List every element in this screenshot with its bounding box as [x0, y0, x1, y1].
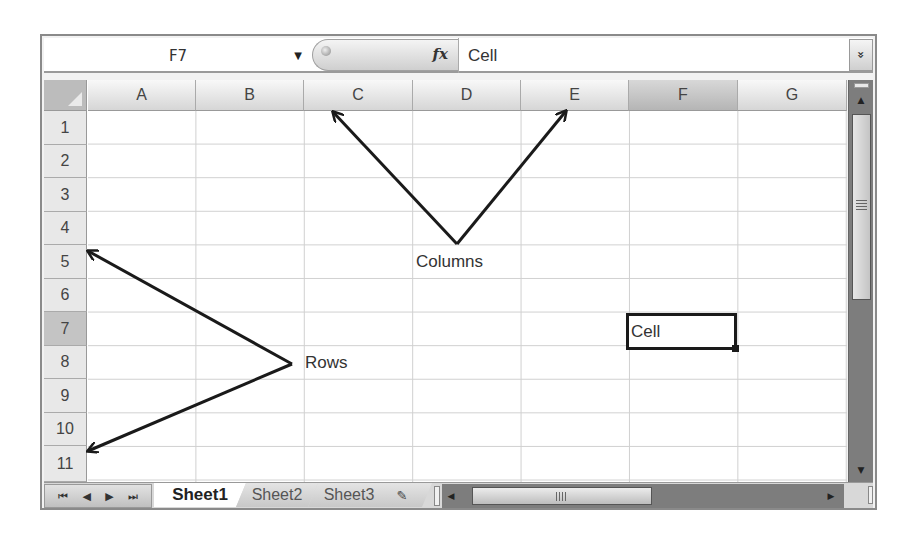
next-sheet-icon[interactable]: ▶	[105, 490, 113, 503]
sheet-tab-sheet2[interactable]: Sheet2	[236, 483, 318, 507]
first-sheet-icon[interactable]: ⏮	[58, 490, 68, 503]
horizontal-split-box[interactable]	[868, 486, 873, 504]
rows-annotation-label: Rows	[305, 353, 348, 373]
row-header-5[interactable]: 5	[44, 245, 87, 279]
row-header-4[interactable]: 4	[44, 212, 87, 245]
formula-bar-divider: fx	[312, 39, 458, 71]
row-header-6[interactable]: 6	[44, 279, 87, 312]
tab-split-handle[interactable]	[434, 486, 440, 506]
spreadsheet-window: F7 ▼ fx Cell » A B C D E F G 1 2 3 4 5 6…	[40, 34, 877, 510]
insert-worksheet-button[interactable]: ✎	[372, 483, 432, 507]
column-header-g[interactable]: G	[738, 80, 847, 111]
column-header-e[interactable]: E	[521, 80, 629, 111]
worksheet-grid: A B C D E F G 1 2 3 4 5 6 7 8 9 10 11 Ce…	[44, 80, 847, 482]
row-header-1[interactable]: 1	[44, 111, 87, 145]
column-header-f[interactable]: F	[629, 80, 738, 111]
columns-annotation-label: Columns	[416, 252, 483, 272]
formula-bar: F7 ▼ fx Cell »	[44, 38, 873, 73]
last-sheet-icon[interactable]: ⏭	[128, 490, 138, 503]
scroll-up-arrow-icon[interactable]: ▲	[849, 92, 873, 108]
horizontal-scroll-thumb[interactable]	[472, 487, 652, 505]
column-header-a[interactable]: A	[88, 80, 196, 111]
sheet-tab-bar: ⏮ ◀ ▶ ⏭ Sheet1 Sheet2 Sheet3 ✎ ◀ ▶	[44, 482, 873, 508]
select-all-button[interactable]	[44, 80, 87, 111]
resize-knob-icon[interactable]	[321, 46, 331, 56]
sheet-tab-sheet1[interactable]: Sheet1	[154, 483, 246, 507]
row-header-7[interactable]: 7	[44, 312, 87, 346]
vertical-scrollbar[interactable]: ▲ ▼	[848, 80, 873, 482]
grip-icon	[556, 492, 566, 501]
column-header-c[interactable]: C	[304, 80, 413, 111]
select-all-triangle-icon	[68, 92, 82, 106]
insert-function-icon[interactable]: fx	[433, 45, 448, 63]
scroll-down-arrow-icon[interactable]: ▼	[849, 462, 873, 478]
expand-formula-bar-button[interactable]: »	[849, 39, 873, 71]
active-cell-f7[interactable]: Cell	[626, 313, 737, 350]
name-box[interactable]: F7	[44, 38, 312, 73]
name-box-value: F7	[169, 47, 187, 65]
row-header-3[interactable]: 3	[44, 178, 87, 212]
new-sheet-icon: ✎	[397, 488, 408, 503]
formula-input[interactable]: Cell	[458, 38, 848, 73]
row-header-8[interactable]: 8	[44, 346, 87, 379]
scroll-right-arrow-icon[interactable]: ▶	[822, 484, 840, 508]
row-header-2[interactable]: 2	[44, 145, 87, 178]
cell-area[interactable]	[88, 111, 847, 482]
row-header-11[interactable]: 11	[44, 446, 87, 482]
fill-handle[interactable]	[732, 345, 739, 352]
horizontal-scrollbar[interactable]: ◀ ▶	[442, 484, 844, 508]
column-header-b[interactable]: B	[196, 80, 304, 111]
row-header-10[interactable]: 10	[44, 413, 87, 446]
column-header-d[interactable]: D	[413, 80, 521, 111]
vertical-scroll-thumb[interactable]	[852, 114, 871, 300]
sheet-navigation: ⏮ ◀ ▶ ⏭	[44, 484, 152, 508]
split-box[interactable]	[854, 83, 869, 88]
row-header-9[interactable]: 9	[44, 379, 87, 413]
formula-input-value: Cell	[468, 46, 497, 66]
active-cell-value: Cell	[631, 322, 660, 342]
grip-icon	[856, 200, 867, 210]
name-box-dropdown-icon[interactable]: ▼	[290, 48, 306, 62]
previous-sheet-icon[interactable]: ◀	[82, 490, 90, 503]
double-chevron-down-icon: »	[854, 51, 868, 59]
scroll-left-arrow-icon[interactable]: ◀	[442, 484, 460, 508]
